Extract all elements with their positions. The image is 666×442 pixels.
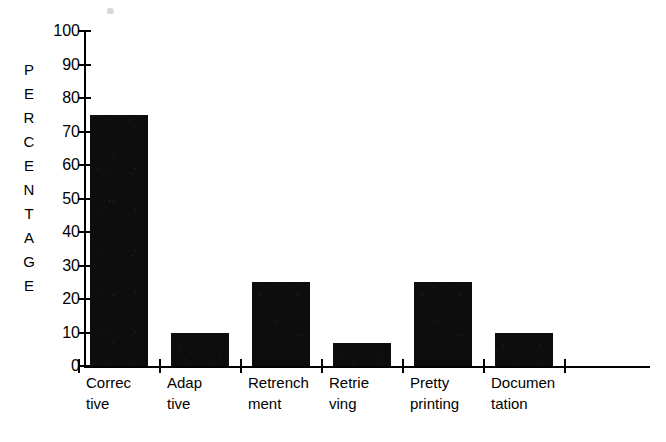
y-axis-title-letter: T [24,202,33,226]
y-axis-title: PERCENTAGE [18,58,40,298]
y-axis-title-letter: C [24,130,35,154]
x-axis-tick-mark [78,359,80,373]
x-axis-tick-label-line: ving [329,393,369,414]
x-axis-tick-label: Documentation [491,372,555,414]
x-axis-tick-label-line: tation [491,393,555,414]
plot-area [84,31,650,366]
bar [333,343,391,366]
x-axis-tick-label-line: tive [167,393,202,414]
y-axis-title-letter: A [24,226,34,250]
scan-artifact-speck [107,8,114,14]
bar [90,115,148,366]
bar-chart: PERCENTAGE 1009080706050403020100 Correc… [0,0,666,442]
y-axis-tick-label: 100 [53,23,80,39]
x-axis-tick-label-line: ment [248,393,309,414]
x-axis-tick-mark [483,359,485,373]
y-axis-title-letter: E [24,274,34,298]
x-axis-tick-mark [240,359,242,373]
x-axis-tick-mark [564,359,566,373]
y-axis-title-letter: N [24,178,35,202]
x-axis-tick-label-line: Retrie [329,372,369,393]
bar [171,333,229,367]
x-axis-tick-label: Adaptive [167,372,202,414]
x-axis-tick-label: Retrieving [329,372,369,414]
bar [252,282,310,366]
y-axis-title-letter: R [24,106,35,130]
bar [495,333,553,367]
x-axis-tick-label-line: Documen [491,372,555,393]
x-axis-tick-label-line: Adap [167,372,202,393]
x-axis-tick-label: Prettyprinting [410,372,459,414]
x-axis-tick-mark [321,359,323,373]
x-axis-tick-label-line: printing [410,393,459,414]
x-axis-tick-label: Retrenchment [248,372,309,414]
y-axis-title-letter: E [24,82,34,106]
x-axis-tick-mark [159,359,161,373]
x-axis-tick-label-line: Retrench [248,372,309,393]
y-axis-title-letter: E [24,154,34,178]
bar [414,282,472,366]
x-axis-tick-label-line: Pretty [410,372,459,393]
y-axis-title-letter: P [24,58,34,82]
y-axis-title-letter: G [23,250,35,274]
x-axis-tick-label: Corrective [86,372,131,414]
x-axis-tick-label-line: Correc [86,372,131,393]
x-axis-tick-label-line: tive [86,393,131,414]
x-axis-tick-mark [402,359,404,373]
y-axis-tick-labels: 1009080706050403020100 [44,0,80,442]
